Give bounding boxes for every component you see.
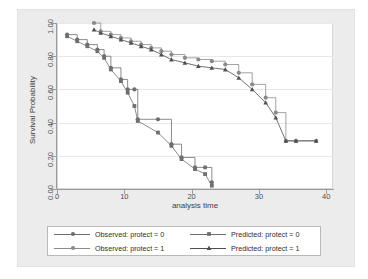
square-marker: [95, 49, 99, 53]
legend-label: Observed: protect = 1: [95, 244, 164, 253]
circle-marker: [92, 21, 96, 25]
legend-key: [190, 229, 226, 239]
series-2: [92, 21, 318, 143]
circle-marker: [169, 52, 173, 56]
square-marker: [204, 231, 214, 241]
legend-label: Observed: protect = 0: [95, 230, 164, 239]
legend-label: Predicted: protect = 1: [231, 244, 300, 253]
legend-key: [190, 243, 226, 253]
square-marker: [136, 119, 140, 123]
square-marker: [203, 172, 207, 176]
triangle-marker: [92, 27, 97, 31]
square-marker: [109, 68, 113, 72]
legend-key: [54, 243, 90, 253]
square-marker: [85, 44, 89, 48]
square-marker: [75, 39, 79, 43]
square-marker: [193, 167, 197, 171]
circle-marker: [68, 245, 78, 255]
circle-marker: [237, 71, 241, 75]
triangle-marker: [207, 245, 212, 249]
circle-marker: [210, 59, 214, 63]
circle-marker: [223, 62, 227, 66]
square-marker: [126, 91, 130, 95]
circle-marker: [264, 96, 268, 100]
square-marker: [102, 56, 106, 60]
legend-entry[interactable]: Observed: protect = 1: [48, 243, 184, 253]
legend-entry[interactable]: Predicted: protect = 0: [184, 229, 320, 239]
square-marker: [207, 232, 211, 236]
circle-marker: [196, 57, 200, 61]
square-marker: [65, 34, 69, 38]
circle-marker: [71, 231, 75, 235]
triangle-marker: [236, 75, 241, 79]
triangle-marker: [169, 57, 174, 61]
square-marker: [119, 79, 123, 83]
legend-label: Predicted: protect = 0: [231, 230, 300, 239]
triangle-marker: [204, 245, 214, 255]
triangle-marker: [159, 52, 164, 56]
circle-marker: [68, 231, 78, 241]
square-marker: [156, 131, 160, 135]
circle-marker: [132, 87, 136, 91]
circle-marker: [274, 111, 278, 115]
circle-marker: [183, 56, 187, 60]
series-3: [92, 27, 319, 143]
circle-marker: [203, 165, 207, 169]
square-marker: [180, 157, 184, 161]
legend-box: Observed: protect = 0Predicted: protect …: [47, 226, 321, 256]
circle-marker: [156, 117, 160, 121]
series-1: [65, 34, 214, 187]
legend-key: [54, 229, 90, 239]
square-marker: [170, 144, 174, 148]
series-0: [65, 33, 214, 185]
square-marker: [133, 104, 137, 108]
series-line: [67, 36, 212, 185]
circle-marker: [250, 82, 254, 86]
legend-entry[interactable]: Observed: protect = 0: [48, 229, 184, 239]
square-marker: [210, 184, 214, 188]
circle-marker: [71, 245, 75, 249]
series-line: [67, 35, 212, 183]
legend-entry[interactable]: Predicted: protect = 1: [184, 243, 320, 253]
survival-plot-figure: 0.000.200.400.600.801.00 010203040 Survi…: [0, 0, 368, 279]
legend-grid: Observed: protect = 0Predicted: protect …: [48, 227, 320, 255]
